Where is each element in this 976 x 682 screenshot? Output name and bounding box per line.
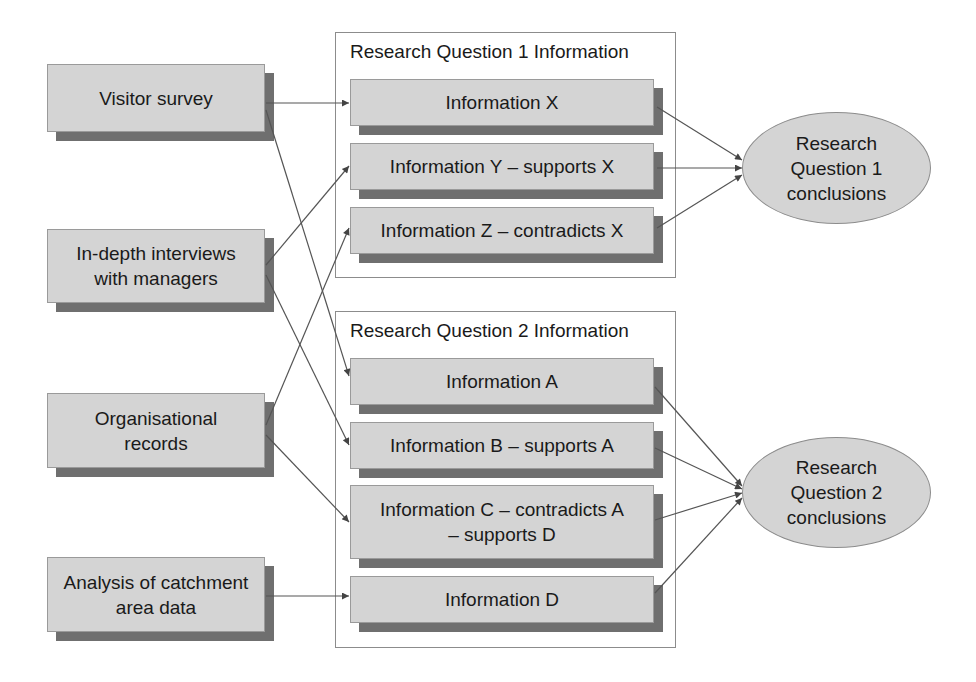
source-in-depth-interviews: In-depth interviews with managers: [47, 229, 265, 303]
info-label: Information D: [445, 587, 559, 612]
info-label: Information A: [446, 369, 558, 394]
source-catchment-analysis: Analysis of catchment area data: [47, 557, 265, 632]
source-visitor-survey: Visitor survey: [47, 64, 265, 132]
rq1-conclusions-ellipse: Research Question 1 conclusions: [742, 112, 931, 224]
info-label: Information Z – contradicts X: [381, 218, 624, 243]
source-label: Organisational records: [95, 406, 218, 456]
conclusion-label: Research Question 1 conclusions: [787, 131, 886, 206]
rq2-conclusions-ellipse: Research Question 2 conclusions: [742, 437, 931, 548]
source-label: Visitor survey: [99, 86, 213, 111]
info-label: Information B – supports A: [390, 433, 614, 458]
source-label: Analysis of catchment area data: [64, 570, 249, 620]
info-d-box: Information D: [350, 576, 654, 623]
source-label: In-depth interviews with managers: [76, 241, 235, 291]
info-label: Information Y – supports X: [390, 154, 614, 179]
rq2-frame-title: Research Question 2 Information: [350, 320, 629, 342]
conclusion-label: Research Question 2 conclusions: [787, 455, 886, 530]
info-label: Information C – contradicts A – supports…: [380, 497, 624, 547]
info-x-box: Information X: [350, 79, 654, 126]
info-b-box: Information B – supports A: [350, 422, 654, 469]
info-a-box: Information A: [350, 358, 654, 405]
info-label: Information X: [446, 90, 559, 115]
info-z-box: Information Z – contradicts X: [350, 207, 654, 254]
source-organisational-records: Organisational records: [47, 393, 265, 468]
info-c-box: Information C – contradicts A – supports…: [350, 485, 654, 559]
rq1-frame-title: Research Question 1 Information: [350, 41, 629, 63]
info-y-box: Information Y – supports X: [350, 143, 654, 190]
